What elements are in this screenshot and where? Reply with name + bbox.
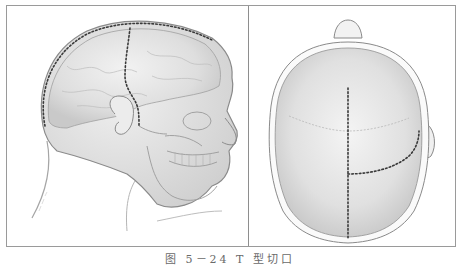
nose-top-view [334, 20, 362, 38]
neck-back-contour [32, 141, 49, 218]
lateral-head-illustration [7, 6, 248, 246]
figure-caption: 图 5－24 T 型切口 [0, 250, 460, 266]
neck-front-contour [126, 181, 135, 231]
figure-frame [6, 5, 456, 247]
skull-top-view-illustration [249, 6, 455, 246]
jaw-neck-contour [157, 211, 222, 221]
superior-view-panel [249, 6, 455, 246]
lateral-view-panel [7, 6, 249, 246]
figure-caption-text: 图 5－24 T 型切口 [165, 250, 295, 266]
